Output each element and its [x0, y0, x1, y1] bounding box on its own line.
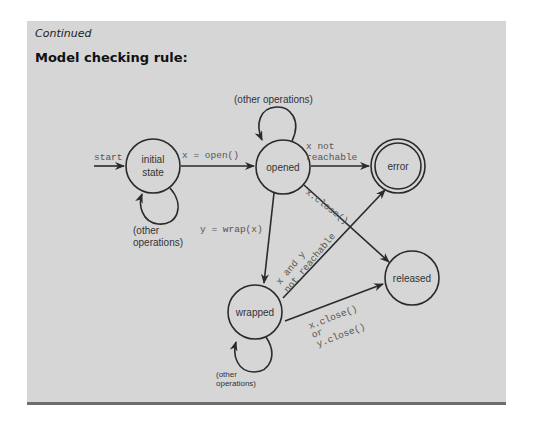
state-initial-label-1: initial — [142, 154, 165, 165]
state-error-label: error — [387, 161, 409, 172]
edge-not-reachable-label-1: x not — [306, 141, 335, 152]
edge-wrap — [264, 193, 274, 283]
loop-initial — [141, 188, 179, 224]
state-opened-label: opened — [266, 162, 299, 173]
loop-initial-label-1: (other — [133, 225, 160, 236]
state-released-label: released — [393, 273, 431, 284]
edge-not-reachable-label-2: reachable — [306, 152, 358, 163]
loop-wrapped-label-1: (other — [216, 370, 237, 379]
edge-x-close-label: x.close() — [303, 187, 350, 227]
state-initial-label-2: state — [142, 167, 164, 178]
state-diagram: initial state opened error released wrap… — [0, 0, 533, 425]
edge-start-label: start — [94, 152, 123, 163]
edge-wrap-label: y = wrap(x) — [200, 224, 263, 235]
loop-wrapped — [235, 337, 272, 372]
state-wrapped-label: wrapped — [235, 307, 274, 318]
loop-wrapped-label-2: operations) — [216, 379, 256, 388]
loop-opened-label: (other operations) — [234, 94, 313, 105]
loop-opened — [259, 107, 296, 141]
edge-open-label: x = open() — [182, 150, 239, 161]
loop-initial-label-2: operations) — [133, 237, 183, 248]
state-initial — [126, 139, 180, 193]
